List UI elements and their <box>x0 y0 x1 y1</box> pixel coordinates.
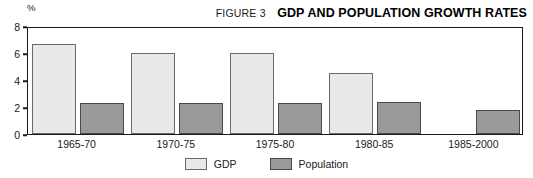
y-axis-unit-label: % <box>27 2 35 13</box>
y-axis-tick-label: 8 <box>0 21 20 33</box>
legend-label-population: Population <box>299 158 349 170</box>
chart-header: FIGURE 3 GDP AND POPULATION GROWTH RATES <box>0 3 533 20</box>
bar-group <box>425 28 524 134</box>
y-axis-tick-label: 2 <box>0 102 20 114</box>
figure-3-chart: FIGURE 3 GDP AND POPULATION GROWTH RATES… <box>0 0 533 178</box>
y-axis-labels: 02468 <box>0 21 27 141</box>
x-axis-tick-label: 1965-70 <box>57 138 96 150</box>
x-axis-tick-label: 1980-85 <box>355 138 394 150</box>
chart-title: GDP AND POPULATION GROWTH RATES <box>277 6 527 20</box>
x-axis-tick-label: 1970-75 <box>157 138 196 150</box>
legend-swatch-population <box>270 158 292 170</box>
bar-population-1985-2000 <box>476 110 520 134</box>
bar-population-1980-85 <box>377 102 421 134</box>
legend-item-gdp[interactable]: GDP <box>185 158 237 170</box>
bar-group <box>226 28 325 134</box>
bar-population-1965-70 <box>80 103 124 134</box>
bars-container <box>28 28 522 134</box>
legend-item-population[interactable]: Population <box>270 158 349 170</box>
x-axis-labels: 1965-701970-751975-801980-851985-2000 <box>27 138 523 152</box>
bar-population-1975-80 <box>278 103 322 134</box>
bar-group <box>326 28 425 134</box>
legend-swatch-gdp <box>185 158 207 170</box>
legend-label-gdp: GDP <box>214 158 237 170</box>
bar-gdp-1980-85 <box>329 73 373 134</box>
bar-gdp-1970-75 <box>131 53 175 134</box>
x-axis-tick-label: 1985-2000 <box>448 138 498 150</box>
chart-legend: GDPPopulation <box>0 155 533 173</box>
y-axis-tick-label: 0 <box>0 129 20 141</box>
bar-group <box>28 28 127 134</box>
x-axis-tick-label: 1975-80 <box>256 138 295 150</box>
y-axis-tick-label: 4 <box>0 75 20 87</box>
bar-gdp-1975-80 <box>230 53 274 134</box>
plot-area <box>27 27 523 135</box>
bar-group <box>127 28 226 134</box>
bar-population-1970-75 <box>179 103 223 134</box>
figure-number: FIGURE 3 <box>216 7 266 19</box>
y-axis-tick-label: 6 <box>0 48 20 60</box>
bar-gdp-1965-70 <box>32 44 76 134</box>
